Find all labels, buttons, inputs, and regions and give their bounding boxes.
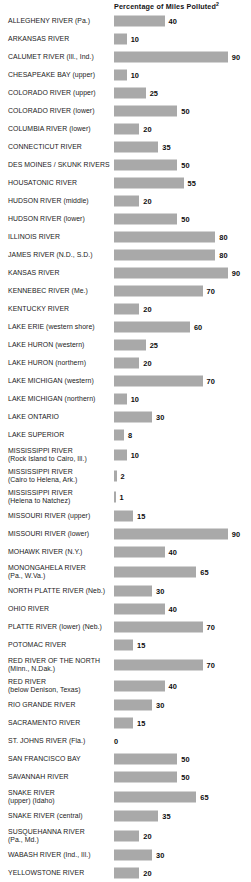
row-bar-zone: 20 [114, 124, 251, 135]
chart-row: MISSISSIPPI RIVER (Rock Island to Cairo,… [0, 444, 251, 465]
row-bar-zone: 10 [114, 34, 251, 45]
row-bar-zone: 70 [114, 659, 251, 670]
row-value-label: 10 [131, 395, 139, 404]
row-bar [114, 622, 203, 633]
chart-row: SAN FRANCISCO BAY50 [0, 750, 251, 768]
row-label: KENNEBEC RIVER (Me.) [8, 287, 112, 295]
row-bar [114, 250, 215, 261]
row-label: HOUSATONIC RIVER [8, 179, 112, 187]
row-bar [114, 304, 139, 315]
row-bar-zone: 10 [114, 449, 251, 460]
row-value-label: 15 [137, 719, 145, 728]
row-value-label: 30 [156, 701, 164, 710]
row-label: CONNECTICUT RIVER [8, 143, 112, 151]
row-label: SNAKE RIVER (central) [8, 812, 112, 820]
row-label: SUSQUEHANNA RIVER (Pa., Md.) [8, 827, 112, 844]
row-label: LAKE ERIE (western shore) [8, 323, 112, 331]
row-bar-zone: 40 [114, 16, 251, 27]
row-bar [114, 491, 116, 502]
row-bar [114, 772, 177, 783]
chart-row: CHESAPEAKE BAY (upper)10 [0, 66, 251, 84]
chart-title: Percentage of Miles Polluted2 [114, 2, 219, 11]
row-label: RIO GRANDE RIVER [8, 701, 112, 709]
chart-row: NORTH PLATTE RIVER (Neb.)30 [0, 582, 251, 600]
row-label: MISSISSIPPI RIVER (Helena to Natchez) [8, 488, 112, 505]
row-value-label: 70 [207, 623, 215, 632]
row-label: RED RIVER OF THE NORTH (Minn., N.Dak.) [8, 656, 112, 673]
row-value-label: 65 [200, 792, 208, 801]
row-bar-zone: 20 [114, 830, 251, 841]
row-bar-zone: 20 [114, 304, 251, 315]
row-bar [114, 868, 139, 879]
row-bar-zone: 40 [114, 547, 251, 558]
chart-row: LAKE ERIE (western shore)60 [0, 318, 251, 336]
row-bar [114, 547, 165, 558]
row-bar-zone: 20 [114, 196, 251, 207]
row-label: LAKE SUPERIOR [8, 431, 112, 439]
row-label: ARKANSAS RIVER [8, 35, 112, 43]
row-value-label: 50 [181, 773, 189, 782]
row-bar [114, 640, 133, 651]
chart-row: WABASH RIVER (Ind., Ill.)30 [0, 846, 251, 864]
row-value-label: 70 [207, 287, 215, 296]
row-bar [114, 529, 228, 540]
chart-row: ARKANSAS RIVER10 [0, 30, 251, 48]
row-label: COLORADO RIVER (lower) [8, 107, 112, 115]
row-bar [114, 376, 203, 387]
chart-row: HUDSON RIVER (middle)20 [0, 192, 251, 210]
row-value-label: 50 [181, 755, 189, 764]
row-value-label: 50 [181, 161, 189, 170]
chart-row: SNAKE RIVER (upper) (Idaho)65 [0, 786, 251, 807]
row-label: SAVANNAH RIVER [8, 773, 112, 781]
row-bar-zone: 35 [114, 811, 251, 822]
row-label: SACRAMENTO RIVER [8, 719, 112, 727]
row-label: ALLEGHENY RIVER (Pa.) [8, 17, 112, 25]
row-value-label: 15 [137, 641, 145, 650]
row-bar [114, 268, 228, 279]
row-label: MOHAWK RIVER (N.Y.) [8, 548, 112, 556]
chart-row: MONONGAHELA RIVER (Pa., W.Va.)65 [0, 561, 251, 582]
chart-title-text: Percentage of Miles Polluted [114, 2, 216, 11]
row-value-label: 20 [143, 831, 151, 840]
row-bar-zone: 25 [114, 88, 251, 99]
chart-row: CONNECTICUT RIVER35 [0, 138, 251, 156]
row-bar-zone: 90 [114, 268, 251, 279]
row-label: ST. JOHNS RIVER (Fla.) [8, 737, 112, 745]
row-value-label: 40 [169, 681, 177, 690]
row-label: CALUMET RIVER (Ill., Ind.) [8, 53, 112, 61]
row-label: KANSAS RIVER [8, 269, 112, 277]
row-label: MISSOURI RIVER (upper) [8, 512, 112, 520]
row-bar-zone: 8 [114, 430, 251, 441]
chart-row: MISSISSIPPI RIVER (Helena to Natchez)1 [0, 486, 251, 507]
row-bar-zone: 35 [114, 142, 251, 153]
row-label: COLUMBIA RIVER (lower) [8, 125, 112, 133]
row-bar [114, 586, 152, 597]
chart-row: ILLINOIS RIVER80 [0, 228, 251, 246]
chart-row: POTOMAC RIVER15 [0, 636, 251, 654]
row-value-label: 80 [219, 233, 227, 242]
row-bar [114, 358, 139, 369]
row-value-label: 0 [114, 737, 118, 746]
row-bar-zone: 50 [114, 772, 251, 783]
row-bar-zone: 25 [114, 340, 251, 351]
row-bar-zone: 80 [114, 232, 251, 243]
row-bar [114, 340, 146, 351]
row-bar [114, 88, 146, 99]
chart-row: CALUMET RIVER (Ill., Ind.)90 [0, 48, 251, 66]
row-label: LAKE MICHIGAN (western) [8, 377, 112, 385]
chart-row: SNAKE RIVER (central)35 [0, 807, 251, 825]
chart-row: LAKE MICHIGAN (northern)10 [0, 390, 251, 408]
row-bar-zone: 50 [114, 754, 251, 765]
chart-row: MISSOURI RIVER (upper)15 [0, 507, 251, 525]
row-label: RED RIVER (below Denison, Texas) [8, 677, 112, 694]
chart-row: LAKE MICHIGAN (western)70 [0, 372, 251, 390]
chart-row: KANSAS RIVER90 [0, 264, 251, 282]
row-value-label: 2 [121, 471, 125, 480]
row-value-label: 35 [162, 812, 170, 821]
chart-row: HOUSATONIC RIVER55 [0, 174, 251, 192]
row-value-label: 20 [143, 305, 151, 314]
row-value-label: 80 [219, 251, 227, 260]
row-value-label: 30 [156, 587, 164, 596]
row-bar-zone: 30 [114, 850, 251, 861]
row-bar [114, 124, 139, 135]
